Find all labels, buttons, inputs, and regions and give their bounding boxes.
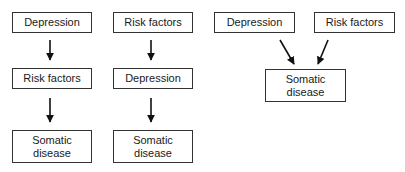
arrow-icon [50, 40, 328, 122]
arrows-layer [0, 0, 405, 172]
